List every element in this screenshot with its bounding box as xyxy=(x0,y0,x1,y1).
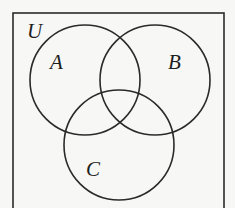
set-b-circle xyxy=(100,25,210,135)
set-a-label: A xyxy=(48,50,63,74)
set-b-label: B xyxy=(168,50,181,74)
set-c-circle xyxy=(64,90,174,200)
set-a-circle xyxy=(30,25,140,135)
set-c-label: C xyxy=(86,157,101,181)
universe-label: U xyxy=(27,19,44,43)
venn-diagram: U A B C xyxy=(0,0,235,208)
